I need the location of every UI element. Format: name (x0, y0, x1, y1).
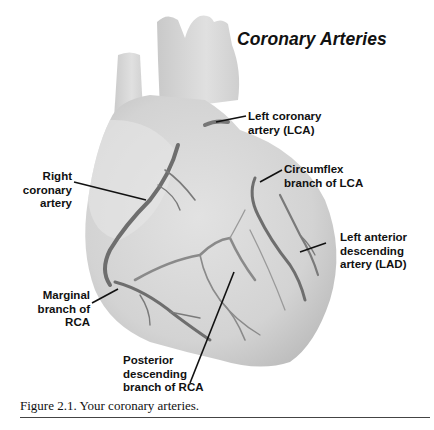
label-circumflex-branch: Circumflex branch of LCA (284, 163, 363, 190)
aortic-arch (157, 16, 239, 110)
label-left-anterior-descending: Left anterior descending artery (LAD) (340, 231, 407, 272)
heart-illustration (0, 0, 434, 430)
figure-caption: Figure 2.1. Your coronary arteries. (20, 398, 199, 414)
label-posterior-descending-branch: Posterior descending branch of RCA (123, 354, 204, 395)
label-right-coronary-artery: Right coronary artery (10, 170, 72, 211)
label-left-coronary-artery: Left coronary artery (LCA) (248, 110, 322, 137)
coronary-arteries-figure: Coronary Arteries Left coronary artery (… (0, 0, 434, 430)
figure-title: Coronary Arteries (237, 29, 387, 50)
caption-divider (20, 417, 430, 418)
label-marginal-branch: Marginal branch of RCA (10, 289, 90, 330)
